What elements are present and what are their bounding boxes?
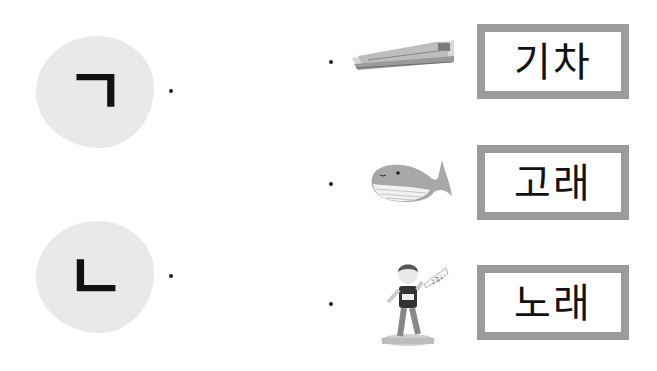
whale-icon bbox=[368, 156, 454, 206]
word-label: 기차 bbox=[514, 42, 592, 82]
match-dot-left-2[interactable] bbox=[169, 274, 173, 278]
train-icon bbox=[348, 36, 456, 72]
word-box-2: 고래 bbox=[477, 145, 629, 220]
word-box-1: 기차 bbox=[477, 24, 629, 99]
consonant-label: ㄴ bbox=[66, 245, 125, 309]
consonant-label: ㄱ bbox=[66, 60, 125, 124]
match-dot-right-3[interactable] bbox=[329, 302, 333, 306]
consonant-card-2: ㄴ bbox=[36, 221, 154, 333]
word-label: 노래 bbox=[514, 283, 592, 323]
singer-icon: ♪♫♩ bbox=[380, 262, 450, 348]
word-box-3: 노래 bbox=[477, 265, 629, 340]
match-dot-left-1[interactable] bbox=[169, 89, 173, 93]
match-dot-right-1[interactable] bbox=[329, 60, 333, 64]
consonant-card-1: ㄱ bbox=[36, 36, 154, 148]
word-label: 고래 bbox=[514, 163, 592, 203]
match-dot-right-2[interactable] bbox=[329, 182, 333, 186]
